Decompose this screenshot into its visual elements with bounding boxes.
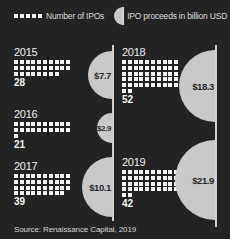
ipo-square xyxy=(37,60,41,64)
ipo-square xyxy=(26,66,30,70)
ipo-square xyxy=(122,182,126,186)
ipo-square xyxy=(122,193,126,197)
ipo-square xyxy=(168,72,172,76)
ipo-square xyxy=(151,187,155,191)
divider-left xyxy=(112,45,114,221)
ipo-square xyxy=(31,180,35,184)
ipo-square xyxy=(151,176,155,180)
ipo-square xyxy=(174,83,178,87)
ipo-square xyxy=(31,66,35,70)
ipo-square xyxy=(122,170,126,174)
ipo-square xyxy=(139,187,143,191)
ipo-square xyxy=(134,77,138,81)
ipo-square xyxy=(163,77,167,81)
ipo-square xyxy=(14,66,18,70)
ipo-square xyxy=(55,66,59,70)
ipo-square xyxy=(55,174,59,178)
ipo-square xyxy=(26,180,30,184)
ipo-square xyxy=(37,180,41,184)
ipo-square xyxy=(134,72,138,76)
ipo-square xyxy=(128,83,132,87)
ipo-count-legend-swatch xyxy=(14,14,42,18)
ipo-square xyxy=(122,60,126,64)
proceeds-legend-label: IPO proceeds in billion USD xyxy=(127,11,227,21)
ipo-square xyxy=(60,191,64,195)
ipo-square xyxy=(168,170,172,174)
ipo-square xyxy=(122,83,126,87)
ipo-square xyxy=(60,174,64,178)
panel-2019: 2019 42 xyxy=(122,156,178,209)
ipo-square xyxy=(14,134,18,138)
ipo-square xyxy=(128,170,132,174)
ipo-square xyxy=(139,77,143,81)
ipo-count: 42 xyxy=(122,198,178,209)
ipo-square xyxy=(60,186,64,190)
ipo-squares xyxy=(14,174,70,195)
ipo-square xyxy=(20,191,24,195)
ipo-square xyxy=(37,72,41,76)
ipo-square xyxy=(163,72,167,76)
ipo-square xyxy=(43,66,47,70)
ipo-square xyxy=(20,60,24,64)
ipo-square xyxy=(134,83,138,87)
ipo-square xyxy=(43,180,47,184)
ipo-square xyxy=(49,128,53,132)
ipo-square xyxy=(20,128,24,132)
ipo-square xyxy=(55,191,59,195)
ipo-square xyxy=(151,170,155,174)
ipo-square xyxy=(151,66,155,70)
ipo-square xyxy=(49,180,53,184)
source-note: Source: Renaissance Capital, 2019 xyxy=(14,225,136,234)
ipo-square xyxy=(14,72,18,76)
ipo-square xyxy=(14,60,18,64)
ipo-square xyxy=(55,122,59,126)
ipo-square xyxy=(66,122,70,126)
ipo-square xyxy=(145,66,149,70)
ipo-square xyxy=(134,66,138,70)
ipo-square xyxy=(49,191,53,195)
ipo-square xyxy=(128,77,132,81)
ipo-squares xyxy=(14,122,70,138)
ipo-square xyxy=(122,77,126,81)
ipo-square xyxy=(122,72,126,76)
ipo-square xyxy=(43,128,47,132)
ipo-square xyxy=(55,60,59,64)
ipo-square xyxy=(145,176,149,180)
ipo-square xyxy=(37,122,41,126)
ipo-square xyxy=(49,72,53,76)
panel-2018: 2018 52 xyxy=(122,46,178,105)
ipo-square xyxy=(49,60,53,64)
ipo-square xyxy=(128,187,132,191)
ipo-square xyxy=(168,187,172,191)
ipo-square xyxy=(26,186,30,190)
ipo-square xyxy=(151,72,155,76)
ipo-square xyxy=(174,77,178,81)
ipo-square xyxy=(26,191,30,195)
ipo-square xyxy=(145,170,149,174)
ipo-square xyxy=(43,186,47,190)
proceeds-semicircle-2016: $2.9 xyxy=(97,113,112,143)
ipo-square xyxy=(14,180,18,184)
ipo-square xyxy=(139,60,143,64)
ipo-square xyxy=(163,60,167,64)
ipo-square xyxy=(134,60,138,64)
ipo-square xyxy=(139,176,143,180)
ipo-square xyxy=(163,66,167,70)
ipo-square xyxy=(60,66,64,70)
ipo-square xyxy=(43,122,47,126)
ipo-square xyxy=(26,128,30,132)
ipo-square xyxy=(163,187,167,191)
ipo-count-legend-label: Number of IPOs xyxy=(46,11,104,21)
year-label: 2016 xyxy=(14,108,70,120)
ipo-square xyxy=(55,128,59,132)
ipo-square xyxy=(168,77,172,81)
ipo-square xyxy=(163,176,167,180)
ipo-square xyxy=(122,187,126,191)
ipo-square xyxy=(168,83,172,87)
panel-2017: 2017 39 xyxy=(14,160,70,207)
ipo-square xyxy=(151,83,155,87)
ipo-square xyxy=(157,60,161,64)
proceeds-semicircle-2018: $18.3 xyxy=(179,50,215,122)
ipo-square xyxy=(31,60,35,64)
ipo-square xyxy=(37,66,41,70)
